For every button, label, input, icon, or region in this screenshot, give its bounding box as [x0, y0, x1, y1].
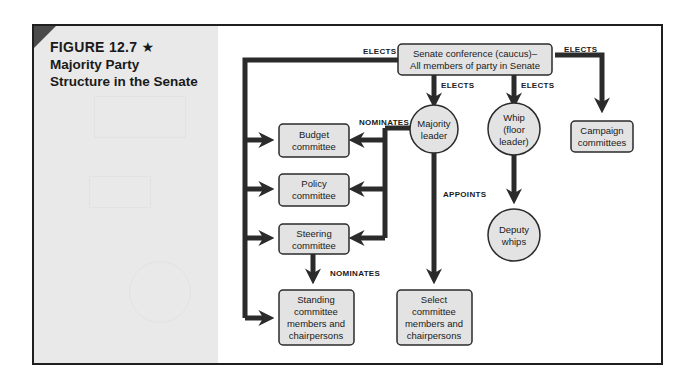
node-label: Budget	[299, 129, 329, 140]
edge-label-elects-leader: ELECTS	[441, 81, 475, 90]
arrow-to-campaign	[555, 55, 602, 107]
node-majority-leader: Majority leader	[410, 105, 458, 153]
node-standing-committee: Standing committee members and chairpers…	[279, 290, 354, 345]
edge-label-elects-campaign: ELECTS	[564, 45, 598, 54]
node-label: chairpersons	[407, 330, 462, 341]
node-label: Steering	[296, 228, 331, 239]
node-label: whips	[501, 236, 527, 247]
node-steering-committee: Steering committee	[279, 224, 349, 254]
node-label: leader	[421, 130, 447, 141]
edge-label-nominates-steering: NOMINATES	[330, 269, 380, 278]
node-label: All members of party in Senate	[410, 60, 540, 71]
edge-label-appoints: APPOINTS	[443, 190, 487, 199]
node-label: committee	[292, 190, 336, 201]
node-label: Standing	[297, 294, 335, 305]
node-label: committees	[578, 137, 627, 148]
node-label: Campaign	[580, 125, 623, 136]
node-label: Senate conference (caucus)–	[413, 48, 538, 59]
node-label: committee	[292, 141, 336, 152]
node-label: committee	[294, 306, 338, 317]
node-label: (floor	[503, 124, 525, 135]
node-label: Majority	[417, 118, 451, 129]
node-campaign-committees: Campaign committees	[571, 121, 633, 152]
edge-label-elects-left: ELECTS	[363, 47, 397, 56]
node-policy-committee: Policy committee	[279, 174, 349, 206]
node-senate-conference: Senate conference (caucus)– All members …	[398, 44, 552, 75]
node-whip: Whip (floor leader)	[488, 103, 540, 155]
node-label: Deputy	[499, 224, 529, 235]
org-chart-diagram: Senate conference (caucus)– All members …	[0, 0, 692, 387]
node-label: Select	[421, 294, 448, 305]
node-label: committee	[292, 240, 336, 251]
edge-label-nominates-leader: NOMINATES	[359, 118, 409, 127]
node-label: leader)	[499, 136, 529, 147]
node-label: chairpersons	[289, 330, 344, 341]
edge-label-elects-whip: ELECTS	[521, 81, 555, 90]
node-label: members and	[405, 318, 463, 329]
node-deputy-whips: Deputy whips	[488, 209, 540, 261]
node-select-committee: Select committee members and chairperson…	[397, 290, 472, 345]
node-budget-committee: Budget committee	[279, 124, 349, 157]
node-label: members and	[287, 318, 345, 329]
node-label: Whip	[503, 112, 525, 123]
node-label: Policy	[301, 178, 327, 189]
node-label: committee	[412, 306, 456, 317]
